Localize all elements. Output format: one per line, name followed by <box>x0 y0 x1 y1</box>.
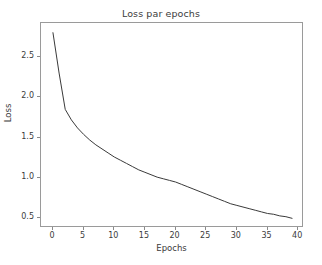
figure-canvas: Loss par epochs 0510152025303540 0.51.01… <box>0 0 322 265</box>
y-tick-mark <box>37 96 40 97</box>
x-tick-label: 25 <box>193 231 217 240</box>
x-tick-label: 15 <box>132 231 156 240</box>
x-tick-mark <box>236 227 237 230</box>
x-tick-mark <box>205 227 206 230</box>
x-tick-label: 5 <box>71 231 95 240</box>
x-tick-label: 30 <box>224 231 248 240</box>
x-tick-label: 20 <box>163 231 187 240</box>
x-tick-mark <box>144 227 145 230</box>
x-tick-mark <box>113 227 114 230</box>
loss-curve-svg <box>41 23 304 228</box>
x-tick-label: 35 <box>255 231 279 240</box>
x-tick-mark <box>52 227 53 230</box>
y-tick-label: 2.5 <box>8 51 34 60</box>
loss-line-series <box>53 33 292 219</box>
x-tick-label: 40 <box>285 231 309 240</box>
x-tick-label: 0 <box>40 231 64 240</box>
y-tick-mark <box>37 217 40 218</box>
y-tick-label: 0.5 <box>8 212 34 221</box>
x-tick-mark <box>175 227 176 230</box>
x-tick-label: 10 <box>101 231 125 240</box>
y-axis-label: Loss <box>3 93 13 133</box>
y-tick-mark <box>37 56 40 57</box>
x-tick-mark <box>83 227 84 230</box>
x-tick-mark <box>297 227 298 230</box>
plot-area <box>40 22 303 227</box>
y-tick-label: 1.0 <box>8 172 34 181</box>
y-tick-mark <box>37 137 40 138</box>
y-tick-mark <box>37 177 40 178</box>
x-axis-label: Epochs <box>40 243 303 253</box>
x-tick-mark <box>267 227 268 230</box>
chart-title: Loss par epochs <box>0 8 322 19</box>
